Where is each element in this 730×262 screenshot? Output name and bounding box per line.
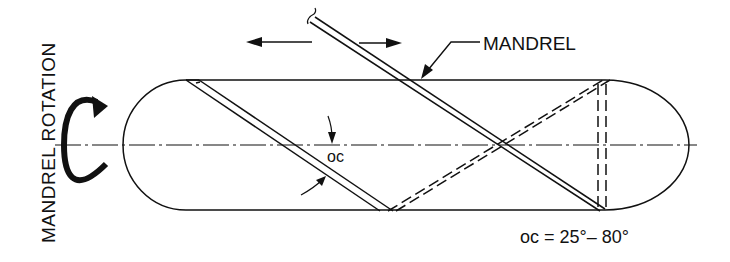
mandrel-leader [421,42,480,79]
angle-label: oc [327,148,344,165]
angle-arrow-top-icon [328,116,336,144]
mandrel-rotation-label: MANDREL ROTATION [38,42,59,243]
traverse-right-arrow-icon [359,38,402,48]
rotation-arrow-icon [64,96,108,180]
mandrel-label: MANDREL [483,33,576,54]
angle-arrow-bottom-icon [301,176,326,195]
angle-range-label: oc = 25°– 80° [520,227,629,247]
filament-winding-diagram: MANDREL ROTATION MANDRE [0,0,730,262]
traverse-left-arrow-icon [246,37,312,47]
